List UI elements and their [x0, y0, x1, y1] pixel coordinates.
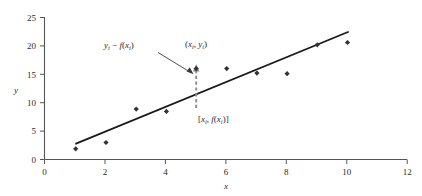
data-point-marker: [254, 71, 259, 76]
data-points-group: [73, 40, 350, 152]
data-point-marker: [73, 146, 78, 151]
residual-annotation-label: yi − f(xi): [103, 40, 134, 51]
annotation-arrowhead-icon: [187, 67, 194, 74]
y-axis-ticks: 25 20 15 10 5 0: [27, 13, 45, 165]
plot-canvas: 25 20 15 10 5 0 0 2 4 6 8 10 12 y x: [0, 0, 422, 196]
x-tick-label-0: 0: [42, 167, 47, 177]
data-point-marker: [345, 40, 350, 45]
observed-point-annotation-label: (xi, yi): [185, 39, 207, 50]
data-point-marker: [285, 71, 290, 76]
x-tick-label-4: 4: [163, 167, 168, 177]
fitted-close-bracket: ]: [226, 114, 229, 124]
data-point-marker: [103, 140, 108, 145]
observed-close-paren: ): [204, 39, 207, 49]
y-tick-label-5: 5: [32, 126, 37, 136]
x-axis-title: x: [223, 181, 228, 191]
y-tick-label-25: 25: [27, 13, 37, 23]
y-tick-label-20: 20: [27, 41, 37, 51]
x-tick-label-2: 2: [103, 167, 108, 177]
data-point-marker: [224, 66, 229, 71]
data-point-marker: [134, 107, 139, 112]
x-tick-label-8: 8: [284, 167, 289, 177]
scatter-plot-figure: 25 20 15 10 5 0 0 2 4 6 8 10 12 y x: [0, 0, 422, 196]
y-axis-title: y: [13, 85, 18, 95]
annotation-leader-line: [158, 53, 190, 73]
x-axis-ticks: 0 2 4 6 8 10 12: [42, 160, 411, 178]
data-point-marker: [164, 109, 169, 114]
x-tick-label-12: 12: [403, 167, 412, 177]
y-tick-label-15: 15: [27, 70, 37, 80]
x-tick-label-10: 10: [342, 167, 352, 177]
residual-close-paren: ): [131, 40, 134, 50]
fitted-point-annotation-label: [xi, f(xi)]: [198, 114, 229, 125]
y-tick-label-10: 10: [27, 98, 37, 108]
axes-group: [45, 17, 408, 160]
x-tick-label-6: 6: [224, 167, 229, 177]
residual-minus-symbol: −: [110, 40, 120, 50]
y-tick-label-0: 0: [32, 155, 37, 165]
